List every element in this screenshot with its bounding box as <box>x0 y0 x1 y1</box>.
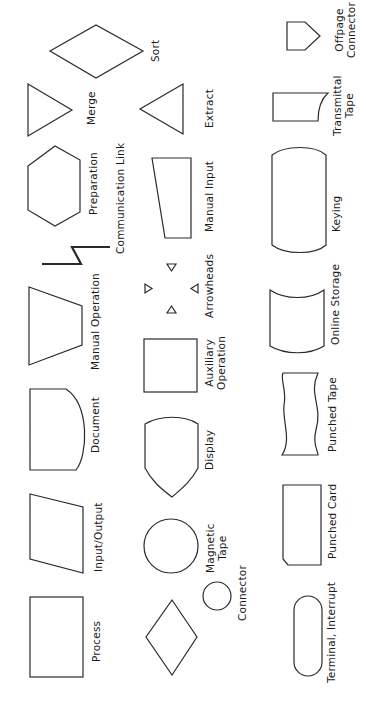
label-merge: Merge <box>85 91 97 125</box>
communication-link-symbol <box>42 247 110 264</box>
label-offpage-connector-line2: Connector <box>345 2 357 58</box>
label-display: Display <box>203 430 215 470</box>
label-document: Document <box>89 397 101 453</box>
label-transmittal-tape-line1: Transmittal <box>331 75 343 136</box>
connector-symbol <box>203 582 231 610</box>
label-keying: Keying <box>330 196 342 232</box>
arrowhead-left-icon <box>191 284 198 293</box>
label-punched-card: Punched Card <box>326 484 338 559</box>
label-process: Process <box>90 621 102 662</box>
offpage-connector-symbol <box>287 22 320 50</box>
label-magnetic-tape-line1: Magnetic <box>204 523 216 573</box>
keying-symbol <box>272 148 326 253</box>
label-transmittal-tape-line2: Tape <box>343 75 355 136</box>
label-manual-operation: Manual Operation <box>89 273 101 370</box>
label-preparation: Preparation <box>87 152 99 215</box>
terminal-symbol <box>294 596 322 676</box>
label-manual-input: Manual Input <box>203 161 215 232</box>
auxiliary-operation-symbol <box>144 339 197 392</box>
label-extract: Extract <box>203 89 215 128</box>
label-auxiliary-operation: Auxiliary Operation <box>203 336 227 390</box>
transmittal-tape-symbol <box>273 93 328 121</box>
arrowhead-down-icon <box>167 264 176 271</box>
input-output-symbol <box>30 494 83 573</box>
label-magnetic-tape-line2: Tape <box>216 523 228 573</box>
magnetic-tape-symbol <box>144 519 198 573</box>
label-auxiliary-operation-line2: Operation <box>215 336 227 390</box>
document-symbol <box>30 389 85 470</box>
label-magnetic-tape: Magnetic Tape <box>204 523 228 573</box>
flowchart-symbols-canvas <box>0 0 366 720</box>
merge-symbol <box>28 84 72 136</box>
label-connector: Connector <box>236 565 248 621</box>
extract-symbol <box>140 84 183 134</box>
process-symbol <box>30 597 83 677</box>
label-sort: Sort <box>149 40 161 62</box>
manual-input-symbol <box>152 158 191 238</box>
punched-tape-symbol <box>282 373 318 455</box>
label-auxiliary-operation-line1: Auxiliary <box>203 336 215 390</box>
arrowhead-up-icon <box>167 306 176 313</box>
punched-card-symbol <box>283 485 321 565</box>
label-offpage-connector: Offpage Connector <box>333 2 357 58</box>
label-input-output: Input/Output <box>92 502 104 572</box>
label-communication-link: Communication Link <box>114 143 126 254</box>
label-online-storage: Online Storage <box>329 264 341 345</box>
label-arrowheads: Arrowheads <box>203 254 215 318</box>
label-offpage-connector-line1: Offpage <box>333 2 345 58</box>
online-storage-symbol <box>270 290 324 353</box>
sort-symbol <box>50 25 143 78</box>
preparation-symbol <box>28 146 80 226</box>
display-symbol <box>145 417 198 497</box>
decision-symbol <box>146 600 197 675</box>
label-transmittal-tape: Transmittal Tape <box>331 75 355 136</box>
manual-operation-symbol <box>29 287 82 365</box>
label-terminal-interrupt: Terminal, Interrupt <box>325 582 337 683</box>
label-punched-tape: Punched Tape <box>326 377 338 452</box>
arrowhead-right-icon <box>145 284 152 293</box>
